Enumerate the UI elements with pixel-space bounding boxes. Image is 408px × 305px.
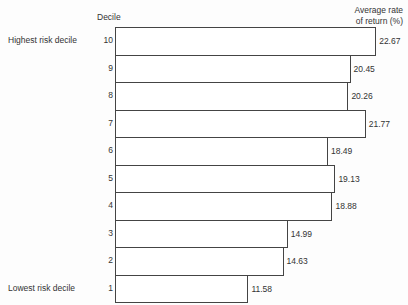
decile-number: 3	[93, 228, 113, 238]
bar-decile-4	[115, 192, 332, 221]
bar-chart: 1022.67920.45820.26721.77618.49519.13418…	[0, 0, 408, 305]
bar-decile-7	[115, 110, 366, 139]
decile-number: 8	[93, 90, 113, 100]
decile-number: 1	[93, 283, 113, 293]
bar-decile-6	[115, 137, 328, 166]
bar-decile-3	[115, 220, 288, 249]
value-label: 18.88	[335, 201, 356, 211]
decile-number: 7	[93, 118, 113, 128]
decile-number: 4	[93, 200, 113, 210]
decile-number: 5	[93, 173, 113, 183]
value-label: 20.45	[354, 64, 375, 74]
value-label: 19.13	[338, 174, 359, 184]
value-label: 20.26	[351, 91, 372, 101]
bar-decile-9	[115, 55, 351, 84]
value-label: 11.58	[251, 284, 272, 294]
bar-decile-5	[115, 165, 335, 194]
bar-decile-10	[115, 27, 376, 56]
decile-number: 6	[93, 145, 113, 155]
bar-decile-2	[115, 247, 284, 276]
value-label: 18.49	[331, 146, 352, 156]
value-label: 14.99	[291, 229, 312, 239]
bar-decile-1	[115, 275, 248, 304]
decile-number: 10	[93, 35, 113, 45]
value-label: 14.63	[287, 256, 308, 266]
value-label: 21.77	[369, 119, 390, 129]
decile-number: 9	[93, 63, 113, 73]
decile-number: 2	[93, 255, 113, 265]
value-label: 22.67	[379, 36, 400, 46]
bar-decile-8	[115, 82, 348, 111]
